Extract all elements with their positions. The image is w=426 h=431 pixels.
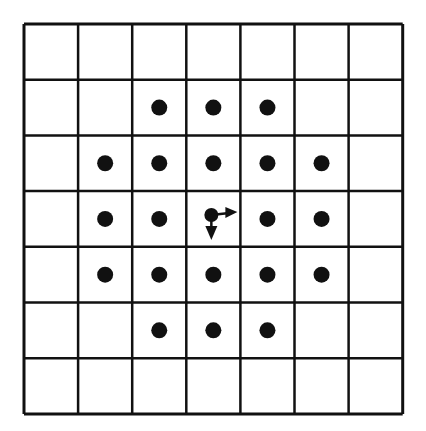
neighborhood-grid-diagram: [0, 0, 426, 431]
dot-icon: [314, 267, 330, 283]
dot-icon: [259, 211, 275, 227]
dot-icon: [314, 155, 330, 171]
dot-icon: [259, 100, 275, 116]
dot-icon: [151, 155, 167, 171]
dot-icon: [205, 155, 221, 171]
dot-icon: [259, 267, 275, 283]
dot-icon: [259, 155, 275, 171]
dot-icon: [259, 322, 275, 338]
arrow-down-icon: [205, 226, 217, 240]
dot-icon: [97, 267, 113, 283]
dot-icon: [151, 100, 167, 116]
dot-icon: [151, 211, 167, 227]
dot-icon: [314, 211, 330, 227]
dot-icon: [151, 267, 167, 283]
dot-icon: [205, 267, 221, 283]
dot-icon: [205, 100, 221, 116]
dot-icon: [97, 211, 113, 227]
dot-icon: [205, 322, 221, 338]
dot-icon: [151, 322, 167, 338]
arrow-right-icon: [225, 207, 237, 218]
dot-icon: [97, 155, 113, 171]
center-cell-with-arrows: [204, 207, 237, 240]
